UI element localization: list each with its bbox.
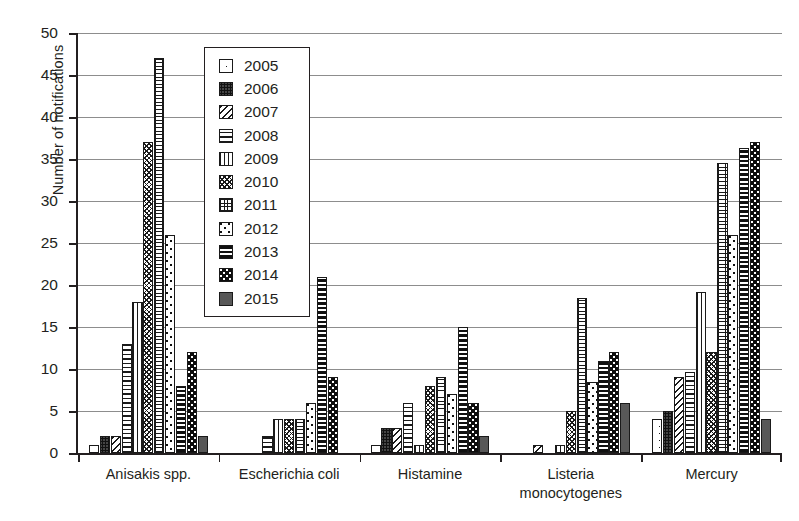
bar-2009[interactable] xyxy=(414,445,424,453)
bar-2013[interactable] xyxy=(176,386,186,453)
bar-2011[interactable] xyxy=(154,58,164,453)
legend-label: 2011 xyxy=(244,196,277,214)
y-axis-tick-label: 20 xyxy=(41,276,58,294)
bar-group: Histamine xyxy=(360,33,501,453)
bar-2012[interactable] xyxy=(165,235,175,453)
y-axis-tick: 20 xyxy=(69,285,76,287)
bar-2014[interactable] xyxy=(468,403,478,453)
bar-2012[interactable] xyxy=(447,394,457,453)
bar-2015[interactable] xyxy=(761,419,771,453)
legend-item-2012[interactable]: 2012 xyxy=(205,217,309,240)
bar-2012[interactable] xyxy=(587,382,597,453)
bar-2013[interactable] xyxy=(598,361,608,453)
legend-swatch-icon xyxy=(219,245,233,259)
y-axis-tick-label: 15 xyxy=(41,318,58,336)
bar-group: Anisakis spp. xyxy=(78,33,219,453)
bar-2007[interactable] xyxy=(533,445,543,453)
bar-2010[interactable] xyxy=(566,411,576,453)
x-axis-tick xyxy=(500,453,502,462)
bar-2009[interactable] xyxy=(273,419,283,453)
bar-2015[interactable] xyxy=(479,436,489,453)
legend-item-2015[interactable]: 2015 xyxy=(205,287,309,310)
y-axis-tick: 5 xyxy=(69,411,76,413)
x-axis-category-label: Escherichia coli xyxy=(239,465,340,484)
bar-2012[interactable] xyxy=(728,235,738,453)
y-axis-tick: 40 xyxy=(69,117,76,119)
legend-item-2005[interactable]: 2005 xyxy=(205,54,309,77)
bar-2005[interactable] xyxy=(89,445,99,453)
legend-item-2010[interactable]: 2010 xyxy=(205,170,309,193)
legend-swatch-icon xyxy=(219,268,233,282)
bar-2013[interactable] xyxy=(317,277,327,453)
x-axis-tick xyxy=(219,453,221,462)
bar-2010[interactable] xyxy=(284,419,294,453)
bar-2013[interactable] xyxy=(739,148,749,453)
x-axis-tick xyxy=(641,453,643,462)
legend-label: 2006 xyxy=(244,80,278,98)
bar-2006[interactable] xyxy=(381,428,391,453)
legend-item-2008[interactable]: 2008 xyxy=(205,124,309,147)
bar-2006[interactable] xyxy=(100,436,110,453)
bar-2012[interactable] xyxy=(306,403,316,453)
legend-label: 2010 xyxy=(244,173,278,191)
bar-2010[interactable] xyxy=(143,142,153,453)
x-axis-tick xyxy=(360,453,362,462)
bar-2009[interactable] xyxy=(132,302,142,453)
x-axis-category-label: Mercury xyxy=(685,465,737,484)
bar-2009[interactable] xyxy=(555,445,565,453)
bar-2006[interactable] xyxy=(663,411,673,453)
bar-2008[interactable] xyxy=(403,403,413,453)
y-axis-tick: 25 xyxy=(69,243,76,245)
bar-2014[interactable] xyxy=(609,352,619,453)
bar-2011[interactable] xyxy=(717,163,727,453)
bar-chart: Number of notifications 0510152025303540… xyxy=(0,0,799,521)
legend-swatch-icon xyxy=(219,175,233,189)
legend-swatch-icon xyxy=(219,222,233,236)
bar-2015[interactable] xyxy=(620,403,630,453)
bar-2013[interactable] xyxy=(458,327,468,453)
x-axis-line xyxy=(76,453,782,455)
legend-label: 2005 xyxy=(244,57,278,75)
bar-2007[interactable] xyxy=(111,436,121,453)
bar-2005[interactable] xyxy=(652,419,662,453)
y-axis-tick: 10 xyxy=(69,369,76,371)
legend-item-2007[interactable]: 2007 xyxy=(205,101,309,124)
x-axis-category-label: Anisakis spp. xyxy=(106,465,191,484)
y-axis-tick-label: 0 xyxy=(49,444,58,462)
legend-label: 2012 xyxy=(244,220,278,238)
legend-label: 2009 xyxy=(244,150,278,168)
bar-2014[interactable] xyxy=(750,142,760,453)
plot-area: 05101520253035404550 Anisakis spp.Escher… xyxy=(76,33,782,455)
bar-group: Listeriamonocytogenes xyxy=(500,33,641,453)
y-axis-tick: 15 xyxy=(69,327,76,329)
legend-swatch-icon xyxy=(219,292,233,306)
bar-groups: Anisakis spp.Escherichia coliHistamineLi… xyxy=(78,33,782,453)
bar-2011[interactable] xyxy=(436,377,446,453)
legend-swatch-icon xyxy=(219,59,233,73)
bar-2009[interactable] xyxy=(696,292,706,453)
bar-2007[interactable] xyxy=(392,428,402,453)
legend-swatch-icon xyxy=(219,152,233,166)
bar-2011[interactable] xyxy=(577,298,587,453)
y-axis-tick: 0 xyxy=(69,453,76,455)
bar-2008[interactable] xyxy=(262,436,272,453)
bar-2010[interactable] xyxy=(706,352,716,453)
bar-2008[interactable] xyxy=(685,372,695,453)
legend-item-2011[interactable]: 2011 xyxy=(205,194,309,217)
bar-2010[interactable] xyxy=(425,386,435,453)
y-axis-tick-label: 5 xyxy=(49,402,58,420)
bar-2015[interactable] xyxy=(198,436,208,453)
x-axis-category-label: Listeriamonocytogenes xyxy=(520,465,622,502)
y-axis-tick: 45 xyxy=(69,75,76,77)
bar-2008[interactable] xyxy=(122,344,132,453)
bar-2014[interactable] xyxy=(187,352,197,453)
bar-2005[interactable] xyxy=(371,445,381,453)
bar-2007[interactable] xyxy=(674,377,684,453)
legend-item-2013[interactable]: 2013 xyxy=(205,240,309,263)
legend-item-2006[interactable]: 2006 xyxy=(205,77,309,100)
bar-2014[interactable] xyxy=(328,377,338,453)
legend-item-2014[interactable]: 2014 xyxy=(205,264,309,287)
x-axis-tick xyxy=(78,453,80,462)
legend-item-2009[interactable]: 2009 xyxy=(205,147,309,170)
bar-2011[interactable] xyxy=(295,419,305,453)
